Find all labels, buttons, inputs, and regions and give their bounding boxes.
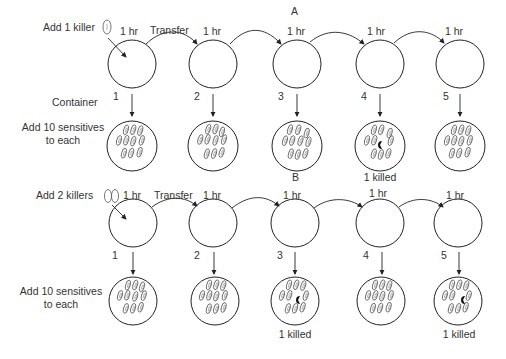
time-label: 1 hr — [446, 190, 464, 201]
container-number: 5 — [443, 91, 449, 102]
container-number: 1 — [112, 250, 118, 261]
add-sensitives-label: Add 10 sensitives — [15, 286, 107, 297]
time-label: 1 hr — [120, 26, 138, 37]
killer-cell-icon — [103, 20, 111, 34]
killer-cells-icon — [105, 190, 119, 203]
add-killer-arrow-icon — [112, 205, 126, 219]
killed-cell-icon — [461, 296, 465, 304]
time-label: 1 hr — [283, 190, 301, 201]
time-label: 1 hr — [367, 26, 385, 37]
down-arrows — [133, 252, 459, 274]
down-arrows — [132, 94, 460, 116]
container-circle — [356, 199, 404, 247]
add-sensitives-label-line2: to each — [20, 135, 106, 146]
container-circle — [271, 199, 319, 247]
plate-circle — [272, 121, 322, 171]
transfer-label: Transfer — [150, 25, 189, 36]
sensitive-cells-icon — [116, 124, 474, 160]
container-number: 2 — [194, 91, 200, 102]
container-circle — [109, 199, 157, 247]
panel-label-a: A — [291, 6, 298, 17]
panel-a — [103, 20, 485, 171]
killed-cell-icon — [378, 141, 382, 149]
transfer-label: Transfer — [154, 190, 193, 201]
time-label: 1 hr — [445, 26, 463, 37]
panel-label-b: B — [292, 172, 299, 183]
time-label: 1 hr — [287, 26, 305, 37]
container-circle — [436, 40, 484, 88]
container-number: 4 — [361, 91, 367, 102]
container-number: 3 — [277, 250, 283, 261]
container-number: 4 — [363, 250, 369, 261]
container-number: 3 — [278, 91, 284, 102]
container-circle — [434, 199, 482, 247]
add-killer-arrow-icon — [108, 38, 126, 57]
container-number: 1 — [113, 91, 119, 102]
container-circle — [273, 40, 321, 88]
container-circle — [356, 40, 404, 88]
plate-circle — [271, 277, 319, 325]
sensitive-cells-icon — [117, 279, 473, 314]
plate-circle — [434, 277, 482, 325]
time-label: 1 hr — [203, 190, 221, 201]
container-number: 5 — [441, 250, 447, 261]
add-killer-label: Add 2 killers — [36, 190, 93, 201]
add-sensitives-label: Add 10 sensitives — [20, 122, 106, 133]
time-label: 1 hr — [203, 26, 221, 37]
add-sensitives-label-line2: to each — [15, 299, 107, 310]
result-label: 1 killed — [429, 329, 489, 340]
container-circle — [189, 199, 237, 247]
container-number: 2 — [194, 250, 200, 261]
panel-b — [105, 190, 483, 326]
killed-cell-icon — [296, 296, 300, 304]
container-circle — [189, 40, 237, 88]
add-killer-label: Add 1 killer — [43, 22, 95, 33]
time-label: 1 hr — [369, 188, 387, 199]
time-label: 1 hr — [123, 190, 141, 201]
container-label: Container — [52, 97, 98, 108]
result-label: 1 killed — [265, 329, 325, 340]
result-label: 1 killed — [350, 172, 410, 183]
container-circle — [108, 40, 156, 88]
